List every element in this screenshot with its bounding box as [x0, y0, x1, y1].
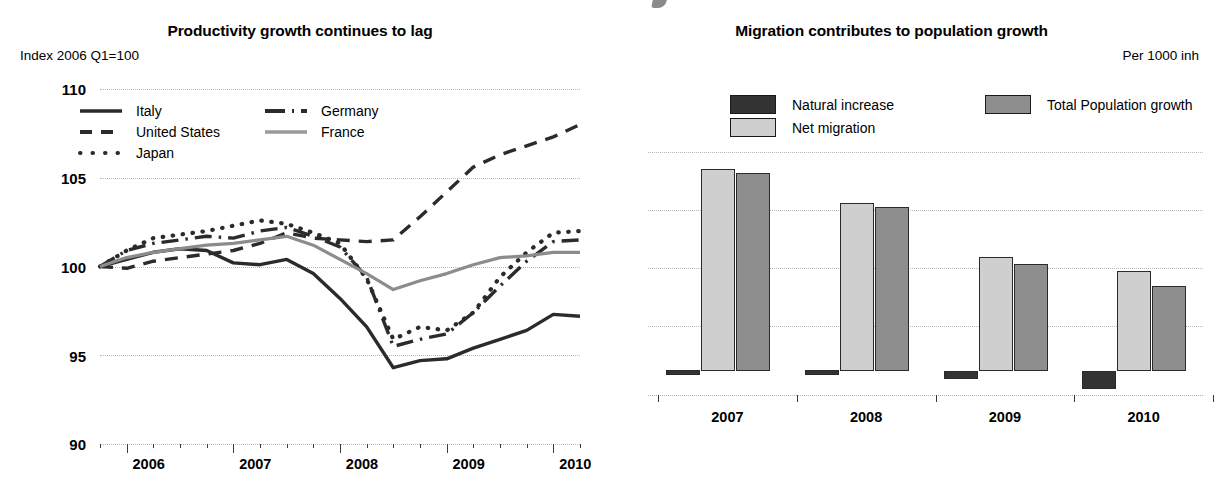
legend-label-japan: Japan — [136, 145, 174, 161]
x-axis-label-2006: 2006 — [133, 456, 165, 472]
x-tick-2006Q4 — [180, 444, 181, 448]
legend-key-france-line — [263, 126, 309, 138]
legend-key-japan-line — [78, 147, 124, 159]
x-tick-2009Q2 — [447, 444, 448, 453]
right-x-tick-1 — [797, 395, 798, 402]
bar-total-population-growth-2009 — [1014, 264, 1048, 371]
x-tick-2006Q2 — [127, 444, 128, 453]
right-x-tick-2 — [936, 395, 937, 402]
right-x-axis-label-2008: 2008 — [850, 409, 882, 425]
x-tick-2007Q3 — [260, 444, 261, 448]
x-axis-label-2009: 2009 — [453, 456, 485, 472]
right-chart-legend: Natural increase Net migration Total Pop… — [730, 93, 1193, 139]
x-axis-label-2008: 2008 — [346, 456, 378, 472]
left-ytick-110: 110 — [28, 81, 86, 98]
x-tick-2009Q4 — [500, 444, 501, 448]
left-chart-axis-note: Index 2006 Q1=100 — [20, 48, 139, 63]
x-tick-2009Q3 — [473, 444, 474, 448]
x-tick-2007Q1 — [207, 444, 208, 448]
left-chart-legend: Italy United States Japan — [78, 100, 443, 163]
left-ytick-90: 90 — [28, 436, 86, 453]
right-x-axis-label-2009: 2009 — [989, 409, 1021, 425]
bar-net-migration-2008 — [840, 203, 874, 371]
right-plot-area — [648, 152, 1203, 395]
x-tick-2008Q2 — [340, 444, 341, 453]
bar-total-population-growth-2008 — [875, 207, 909, 371]
legend-swatch-net-migration — [730, 118, 776, 137]
right-chart-title: Migration contributes to population grow… — [604, 22, 1179, 40]
x-tick-2006Q1 — [100, 444, 101, 448]
legend-swatch-natural-increase — [730, 95, 776, 114]
legend-swatch-total-population-growth — [985, 95, 1031, 114]
legend-item-germany[interactable]: Germany — [263, 100, 443, 121]
legend-label-natural-increase: Natural increase — [792, 97, 894, 113]
legend-label-france: France — [321, 124, 365, 140]
right-x-tick-0 — [658, 395, 659, 402]
left-chart-panel: Productivity growth continues to lag Ind… — [0, 0, 600, 489]
bar-total-population-growth-2007 — [736, 173, 770, 371]
bar-total-population-growth-2010 — [1152, 286, 1186, 371]
legend-item-france[interactable]: France — [263, 121, 443, 142]
legend-key-united-states-line — [78, 126, 124, 138]
x-tick-2010Q2 — [553, 444, 554, 453]
bars-layer — [648, 152, 1203, 395]
x-tick-2010Q3 — [580, 444, 581, 448]
legend-item-total-population-growth[interactable]: Total Population growth — [985, 93, 1193, 116]
left-ytick-105: 105 — [28, 170, 86, 187]
legend-label-italy: Italy — [136, 103, 162, 119]
x-tick-2006Q3 — [153, 444, 154, 448]
legend-key-italy-line — [78, 105, 124, 117]
bar-net-migration-2009 — [979, 257, 1013, 371]
left-x-axis: 20062007200820092010 — [100, 444, 580, 484]
x-tick-2008Q3 — [367, 444, 368, 448]
legend-label-germany: Germany — [321, 103, 379, 119]
bar-net-migration-2007 — [701, 169, 735, 371]
x-tick-2010Q1 — [527, 444, 528, 448]
left-ytick-100: 100 — [28, 259, 86, 276]
right-chart-panel: Migration contributes to population grow… — [600, 0, 1195, 489]
right-x-tick-3 — [1074, 395, 1075, 402]
x-axis-label-2007: 2007 — [239, 456, 271, 472]
legend-label-net-migration: Net migration — [792, 120, 875, 136]
legend-key-germany-line — [263, 105, 309, 117]
line-series-italy — [100, 249, 580, 368]
bar-net-migration-2010 — [1117, 271, 1151, 371]
bar-natural-increase-2009 — [944, 371, 978, 380]
x-tick-2008Q4 — [393, 444, 394, 448]
legend-item-japan[interactable]: Japan — [78, 142, 263, 163]
line-series-france — [100, 236, 580, 289]
bar-natural-increase-2008 — [805, 370, 839, 375]
bar-natural-increase-2007 — [666, 370, 700, 375]
line-series-germany — [100, 227, 580, 346]
left-chart-title: Productivity growth continues to lag — [0, 22, 600, 40]
legend-label-united-states: United States — [136, 124, 220, 140]
right-x-axis-label-2010: 2010 — [1127, 409, 1159, 425]
legend-item-natural-increase[interactable]: Natural increase — [730, 93, 985, 116]
x-tick-2009Q1 — [420, 444, 421, 448]
x-tick-2008Q1 — [313, 444, 314, 448]
legend-label-total-population-growth: Total Population growth — [1047, 97, 1193, 113]
bar-natural-increase-2010 — [1082, 371, 1116, 389]
legend-item-italy[interactable]: Italy — [78, 100, 263, 121]
right-chart-axis-note: Per 1000 inh — [1122, 48, 1199, 63]
legend-item-united-states[interactable]: United States — [78, 121, 263, 142]
x-axis-label-2010: 2010 — [559, 456, 591, 472]
right-x-axis: 2007200820092010 — [648, 395, 1203, 435]
x-tick-2007Q4 — [287, 444, 288, 448]
left-ytick-95: 95 — [28, 348, 86, 365]
right-x-axis-label-2007: 2007 — [711, 409, 743, 425]
x-tick-2007Q2 — [233, 444, 234, 453]
legend-item-net-migration[interactable]: Net migration — [730, 116, 985, 139]
